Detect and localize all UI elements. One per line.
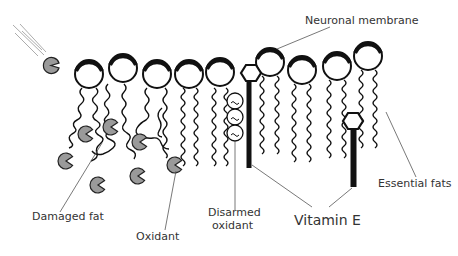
oxidant-icon [130,168,145,184]
damaged-tails [69,84,169,161]
damaged-tail [91,88,103,161]
damaged-tail [122,84,135,159]
motion-streak [13,25,44,55]
incoming-oxidant [13,24,59,74]
label-disarmed-line2: oxidant [212,219,254,232]
membrane-diagram: Neuronal membrane Essential fats Damaged… [0,0,458,256]
damaged-tail [158,108,162,137]
label-essential-fats: Essential fats [378,177,452,190]
fatty-acid-tail [212,88,216,166]
fatty-acid-tail [327,80,331,158]
label-disarmed-line1: Disarmed [208,206,261,219]
fatty-acid-tail [292,84,296,162]
disarmed-oxidants [227,93,243,141]
oxidant-icon [167,157,182,173]
leader-vitamin-e-1 [252,165,312,207]
disarmed-oxidant-icon [227,125,243,141]
vitamin-e-chain [351,129,357,187]
disarmed-oxidant-icon [227,109,243,125]
vitamin-e-ring-icon [241,65,261,81]
vitamin-e-molecule-2 [343,113,363,187]
label-neuronal-membrane: Neuronal membrane [305,14,419,27]
fatty-acid-tail [373,70,377,148]
oxidant-icon [103,119,118,135]
vitamin-e-ring-icon [343,113,363,129]
disarmed-oxidant-icon [227,93,243,109]
label-damaged-fat: Damaged fat [32,210,105,223]
leader-oxidant [165,171,176,230]
vitamin-e-chain [247,81,252,168]
motion-streak [15,33,38,56]
fatty-acid-tail [194,88,198,166]
oxidant-icon [43,58,59,74]
fatty-acid-tail [181,88,185,166]
oxidant-icon [78,126,93,142]
vitamin-e-molecule-1 [241,65,261,168]
label-oxidant: Oxidant [136,230,180,243]
leader-essential-fats [386,112,416,177]
fatty-acid-tail [275,76,279,154]
oxidant-icon [58,153,73,169]
oxidant-icon [90,177,105,193]
leader-vitamin-e-2 [329,188,352,207]
oxidant-icon [132,134,147,150]
leader-neuronal-membrane [277,27,330,49]
fatty-acid-tail [307,84,311,162]
motion-streak [22,31,42,50]
label-vitamin-e: Vitamin E [294,212,361,228]
fatty-acid-tail [260,76,264,154]
fatty-acid-tail [359,70,363,148]
motion-streak [20,24,46,52]
